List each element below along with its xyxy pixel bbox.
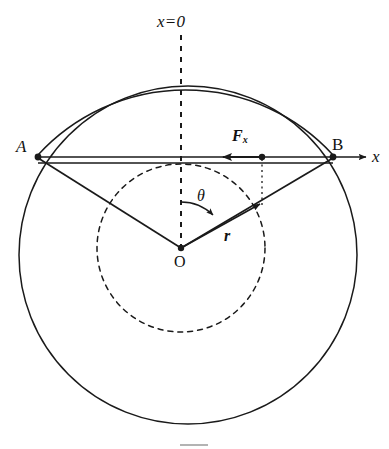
angle-label-theta: θ <box>197 188 205 204</box>
diagram-canvas <box>0 0 389 449</box>
force-x-label-subscript: x <box>243 134 248 145</box>
point-B-marker <box>330 154 337 161</box>
physics-figure: x=0 A B O θ r Fx x <box>0 0 389 449</box>
vertical-axis-label: x=0 <box>157 13 185 30</box>
x-axis-label: x <box>372 148 380 165</box>
radius-vector-arrow <box>181 204 260 248</box>
caption-fragment <box>180 444 208 446</box>
radius-vector-label: r <box>224 228 230 244</box>
outer-circle <box>19 86 357 424</box>
point-A-marker <box>35 154 42 161</box>
origin-marker <box>178 245 184 251</box>
force-x-label: Fx <box>232 128 248 145</box>
force-x-label-base: F <box>232 127 243 144</box>
chord-A-to-origin <box>38 158 181 248</box>
force-application-dot <box>259 154 265 160</box>
point-label-a: A <box>16 138 26 155</box>
point-label-b: B <box>332 136 343 153</box>
origin-label: O <box>174 254 186 270</box>
